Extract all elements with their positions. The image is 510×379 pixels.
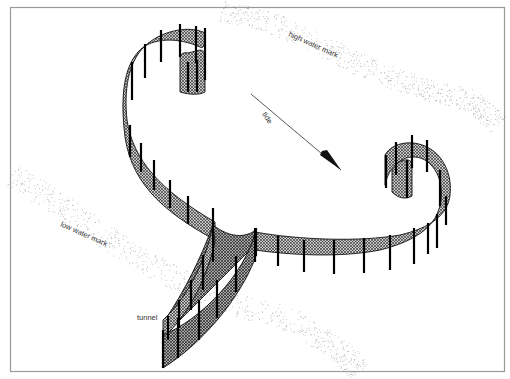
stipple-dot [139,256,140,257]
stipple-dot [354,60,355,61]
stipple-dot [321,350,322,351]
stipple-dot [161,273,162,274]
stipple-dot [483,100,484,101]
stipple-dot [389,80,390,81]
stipple-dot [341,356,342,357]
stipple-dot [449,93,450,94]
stipple-dot [414,93,415,94]
stipple-dot [117,232,118,233]
stipple-dot [338,65,339,66]
stipple-dot [256,29,257,30]
stipple-dot [249,25,250,26]
stipple-dot [372,61,373,62]
stipple-dot [59,210,60,211]
stipple-dot [338,47,339,48]
stipple-dot [353,67,354,68]
stipple-dot [346,369,347,370]
stipple-dot [301,317,302,318]
stipple-dot [456,105,457,106]
stipple-dot [261,29,262,30]
stipple-dot [343,355,344,356]
stipple-dot [451,101,452,102]
stipple-dot [317,38,318,39]
stipple-dot [329,336,330,337]
stipple-dot [61,213,62,214]
stipple-dot [279,325,280,326]
stipple-dot [28,187,29,188]
stipple-dot [118,240,119,241]
stipple-dot [465,93,466,94]
stipple-dot [262,318,263,319]
stipple-dot [351,359,352,360]
stipple-dot [396,76,397,77]
stipple-dot [465,98,466,99]
stipple-dot [330,352,331,353]
stipple-dot [431,85,432,86]
stipple-dot [416,94,417,95]
stipple-dot [360,66,361,67]
stipple-dot [498,118,499,119]
stipple-dot [124,251,125,252]
stipple-dot [237,24,238,25]
stipple-dot [482,99,483,100]
stipple-dot [367,61,368,62]
stipple-dot [242,307,243,308]
stipple-dot [354,54,355,55]
stipple-dot [147,267,148,268]
stipple-dot [355,372,356,373]
stipple-dot [404,71,405,72]
stipple-dot [346,373,347,374]
stipple-dot [314,323,315,324]
stipple-dot [299,332,300,333]
stipple-dot [450,90,451,91]
stipple-dot [271,314,272,315]
stipple-dot [346,345,347,346]
stipple-dot [355,374,356,375]
stipple-dot [256,314,257,315]
stipple-dot [280,311,281,312]
stipple-dot [264,30,265,31]
stipple-dot [186,270,187,271]
stipple-dot [174,272,175,273]
stipple-dot [295,22,296,23]
stipple-dot [115,237,116,238]
stipple-dot [256,28,257,29]
stipple-dot [433,82,434,83]
stipple-dot [246,315,247,316]
stipple-dot [33,178,34,179]
stipple-dot [69,201,70,202]
stipple-dot [266,30,267,31]
stipple-dot [225,1,226,2]
stipple-dot [283,25,284,26]
stipple-dot [67,200,68,201]
stipple-dot [284,22,285,23]
stipple-dot [446,85,447,86]
stipple-dot [305,29,306,30]
stipple-dot [323,351,324,352]
stipple-dot [229,23,230,24]
stipple-dot [129,242,130,243]
stipple-dot [281,21,282,22]
stipple-dot [427,83,428,84]
stipple-dot [460,105,461,106]
stipple-dot [505,116,506,117]
stipple-dot [374,61,375,62]
stipple-dot [309,321,310,322]
stipple-dot [254,18,255,19]
stipple-dot [20,183,21,184]
stipple-dot [485,112,486,113]
stipple-dot [366,364,367,365]
stipple-dot [245,18,246,19]
stipple-dot [361,66,362,67]
stipple-dot [311,35,312,36]
stipple-dot [303,334,304,335]
stipple-dot [352,56,353,57]
stipple-dot [469,104,470,105]
stipple-dot [487,125,488,126]
stipple-dot [49,202,50,203]
stipple-dot [432,93,433,94]
stipple-dot [309,328,310,329]
stipple-dot [48,200,49,201]
stipple-dot [281,22,282,23]
stipple-dot [353,350,354,351]
